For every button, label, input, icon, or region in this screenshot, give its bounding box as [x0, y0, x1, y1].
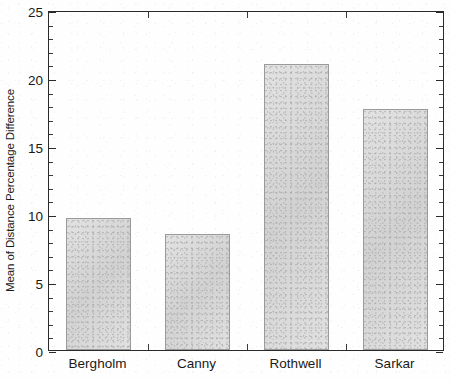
y-axis-minor-tick [49, 26, 53, 27]
y-axis-major-tick [436, 148, 443, 149]
y-axis-minor-tick [49, 243, 53, 244]
y-axis-tick-label: 20 [28, 73, 43, 88]
x-axis-label-rothwell: Rothwell [270, 356, 322, 371]
y-axis-minor-tick [49, 298, 53, 299]
bar-chart-figure: Mean of Distance Percentage Difference 0… [0, 0, 452, 381]
y-axis-minor-tick [439, 257, 443, 258]
x-axis-tick [247, 344, 248, 350]
y-axis-minor-tick [49, 230, 53, 231]
y-axis-minor-tick [439, 270, 443, 271]
plot-area: 0510152025 [48, 11, 444, 351]
y-axis-title: Mean of Distance Percentage Difference [0, 0, 20, 381]
y-axis-major-tick [49, 352, 56, 353]
bar-bergholm [66, 218, 131, 350]
y-axis-major-tick [436, 80, 443, 81]
y-axis-major-tick [49, 12, 56, 13]
y-axis-minor-tick [439, 53, 443, 54]
y-axis-minor-tick [49, 175, 53, 176]
y-axis-major-tick [49, 80, 56, 81]
y-axis-minor-tick [439, 298, 443, 299]
x-axis-label-bergholm: Bergholm [69, 356, 127, 371]
y-axis-minor-tick [439, 134, 443, 135]
y-axis-minor-tick [49, 311, 53, 312]
y-axis-tick-label: 10 [28, 209, 43, 224]
y-axis-minor-tick [49, 39, 53, 40]
y-axis-minor-tick [439, 66, 443, 67]
x-axis-label-sarkar: Sarkar [375, 356, 415, 371]
y-axis-minor-tick [49, 162, 53, 163]
y-axis-minor-tick [439, 189, 443, 190]
x-axis-tick [346, 12, 347, 18]
y-axis-major-tick [49, 284, 56, 285]
y-axis-minor-tick [439, 243, 443, 244]
x-axis-label-canny: Canny [177, 356, 216, 371]
y-axis-major-tick [436, 216, 443, 217]
y-axis-minor-tick [439, 311, 443, 312]
y-axis-minor-tick [439, 121, 443, 122]
y-axis-minor-tick [439, 202, 443, 203]
y-axis-minor-tick [49, 189, 53, 190]
y-axis-minor-tick [49, 107, 53, 108]
y-axis-minor-tick [49, 53, 53, 54]
bar-rothwell [264, 64, 329, 350]
y-axis-minor-tick [49, 325, 53, 326]
y-axis-minor-tick [49, 94, 53, 95]
y-axis-minor-tick [439, 162, 443, 163]
y-axis-minor-tick [439, 107, 443, 108]
x-axis-tick [247, 12, 248, 18]
y-axis-minor-tick [439, 94, 443, 95]
y-axis-tick-label: 5 [35, 277, 43, 292]
y-axis-major-tick [436, 284, 443, 285]
x-axis-tick [148, 12, 149, 18]
y-axis-major-tick [49, 216, 56, 217]
y-axis-minor-tick [49, 270, 53, 271]
y-axis-minor-tick [49, 257, 53, 258]
y-axis-major-tick [49, 148, 56, 149]
y-axis-tick-label: 25 [28, 5, 43, 20]
y-axis-minor-tick [49, 338, 53, 339]
y-axis-minor-tick [49, 202, 53, 203]
bar-sarkar [363, 109, 428, 350]
y-axis-minor-tick [439, 26, 443, 27]
y-axis-minor-tick [49, 121, 53, 122]
y-axis-minor-tick [49, 134, 53, 135]
y-axis-major-tick [436, 352, 443, 353]
x-axis-tick [148, 344, 149, 350]
y-axis-minor-tick [49, 66, 53, 67]
y-axis-minor-tick [439, 230, 443, 231]
y-axis-major-tick [436, 12, 443, 13]
y-axis-minor-tick [439, 338, 443, 339]
y-axis-minor-tick [439, 39, 443, 40]
x-axis-tick [346, 344, 347, 350]
y-axis-tick-label: 15 [28, 141, 43, 156]
y-axis-tick-label: 0 [35, 345, 43, 360]
y-axis-minor-tick [439, 175, 443, 176]
bar-canny [165, 234, 230, 350]
y-axis-minor-tick [439, 325, 443, 326]
